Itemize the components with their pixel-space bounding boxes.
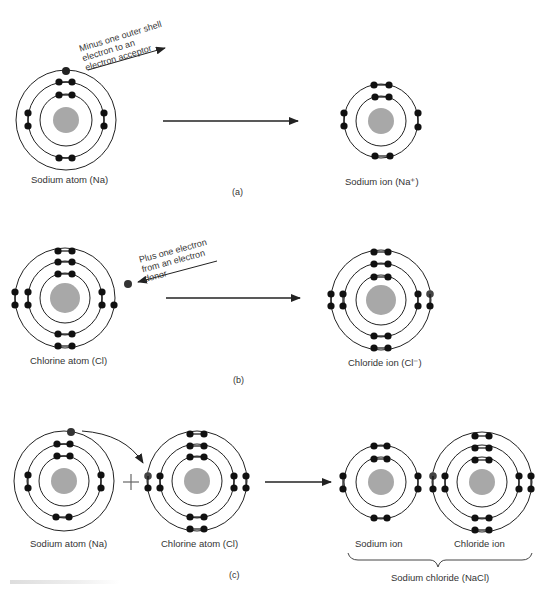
sodium-ion-a (340, 81, 421, 159)
caption-sodium-ion-a: Sodium ion (Na⁺) (345, 176, 419, 187)
caption-chlorine-atom-b: Chlorine atom (Cl) (30, 355, 107, 366)
panel-label-a: (a) (232, 187, 243, 197)
chlorine-atom-c (144, 430, 249, 532)
caption-sodium-ion-c: Sodium ion (355, 538, 403, 549)
caption-sodium-atom-c: Sodium atom (Na) (30, 538, 107, 549)
ionic-bonding-diagram (0, 0, 553, 589)
incoming-electron (124, 280, 132, 288)
caption-chloride-ion-b: Chloride ion (Cl⁻) (348, 357, 422, 368)
panel-label-c: (c) (229, 570, 240, 580)
panel-label-b: (b) (233, 375, 244, 385)
compound-brace (348, 553, 532, 567)
caption-sodium-chloride: Sodium chloride (NaCl) (391, 572, 489, 583)
chlorine-atom-b (11, 247, 117, 349)
chloride-ion-b (327, 248, 433, 351)
caption-chloride-ion-c: Chloride ion (454, 538, 505, 549)
sodium-ion-c (339, 442, 421, 521)
caption-sodium-atom-a: Sodium atom (Na) (31, 174, 108, 185)
plus-sign-icon (123, 474, 139, 490)
electron-transfer-arrow (82, 431, 143, 463)
chloride-ion-c (429, 432, 534, 534)
caption-chlorine-atom-c: Chlorine atom (Cl) (161, 538, 238, 549)
sodium-atom-a (16, 67, 116, 170)
figure-footer-remnant (10, 580, 120, 584)
sodium-atom-c (14, 428, 114, 531)
